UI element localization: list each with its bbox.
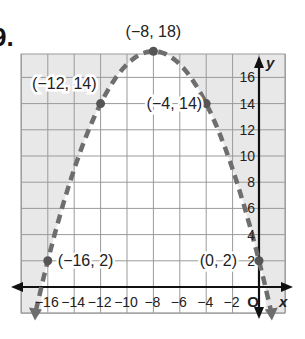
x-tick-label: −14 [61, 294, 85, 310]
y-tick-label: 6 [247, 200, 255, 216]
y-tick-label: 2 [247, 253, 255, 269]
point-label: (−12, 14) [32, 75, 96, 92]
x-tick-label: −6 [171, 294, 187, 310]
x-tick-label: −4 [197, 294, 213, 310]
x-tick-label: −8 [144, 294, 160, 310]
y-tick-label: 12 [239, 122, 255, 138]
point-label: (−8, 18) [126, 23, 182, 40]
data-point [43, 256, 52, 265]
curve-right-arrow-icon [265, 308, 278, 321]
x-tick-label: −16 [35, 294, 59, 310]
parabola-graph: −16−14−12−10−8−6−4−2468101214162Oxy(−16,… [0, 0, 305, 339]
x-axis-right-arrow-icon [281, 282, 293, 292]
y-tick-label: 10 [239, 148, 255, 164]
point-label: (−4, 14) [147, 95, 203, 112]
y-tick-label: 4 [247, 227, 255, 243]
x-axis-label: x [278, 293, 288, 310]
x-tick-label: −12 [88, 294, 112, 310]
x-tick-label: −2 [224, 294, 240, 310]
data-point [202, 99, 211, 108]
data-point [255, 256, 264, 265]
origin-label: O [247, 293, 259, 310]
x-tick-label: −10 [114, 294, 138, 310]
y-tick-label: 14 [239, 96, 255, 112]
point-label: (−16, 2) [58, 252, 114, 269]
data-point [149, 47, 158, 56]
y-axis-label: y [265, 54, 275, 71]
y-tick-label: 16 [239, 69, 255, 85]
y-tick-label: 8 [247, 174, 255, 190]
x-axis-left-arrow-icon [11, 282, 23, 292]
data-point [96, 99, 105, 108]
point-label: (0, 2) [200, 252, 237, 269]
